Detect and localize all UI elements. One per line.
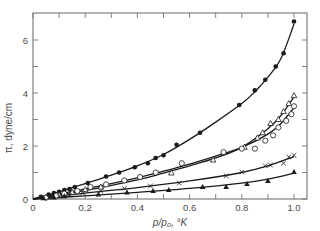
filled-triangle-marker [124, 189, 130, 194]
open-circle-marker [252, 146, 257, 151]
open-triangle-marker [291, 93, 297, 98]
data-markers [39, 19, 297, 200]
filled-circle-marker [292, 19, 297, 24]
filled-triangle-marker [291, 169, 297, 174]
open-circle-marker [122, 178, 127, 183]
open-circle-marker [289, 112, 294, 117]
open-circle-marker [239, 146, 244, 151]
filled-circle-marker [174, 142, 179, 147]
open-circle-marker [284, 118, 289, 123]
x-tick-label: 1.0 [287, 202, 300, 213]
x-tick-label: 0.6 [183, 202, 196, 213]
filled-circle-marker [153, 156, 158, 161]
series-filled-triangles [41, 169, 297, 200]
filled-circle-marker [281, 51, 286, 56]
x-tick-label: 0.8 [235, 202, 248, 213]
x-tick-label: 0.4 [131, 202, 144, 213]
open-circle-marker [221, 149, 226, 154]
open-circle-marker [291, 104, 296, 109]
open-circle-marker [88, 184, 93, 189]
open-triangle-marker [268, 120, 274, 125]
open-triangle-marker [260, 130, 266, 135]
fit-curves [33, 24, 294, 199]
y-tick-label: 0 [23, 194, 28, 205]
chart-container: 00.20.40.60.81.00246 p/p₀, °K π, dyne/cm [0, 0, 320, 231]
filled-circle-marker [237, 103, 242, 108]
axis-ticks: 00.20.40.60.81.00246 [23, 13, 307, 213]
filled-circle-marker [253, 88, 258, 93]
filled-circle-marker [146, 161, 151, 166]
x-tick-label: 0 [30, 202, 35, 213]
filled-circle-marker [117, 170, 122, 175]
series-open-circles [43, 104, 296, 201]
filled-circle-marker [132, 165, 137, 170]
y-tick-label: 6 [23, 35, 28, 46]
open-circle-marker [75, 188, 80, 193]
open-circle-marker [137, 174, 142, 179]
y-tick-label: 4 [23, 88, 28, 99]
filled-circle-marker [104, 174, 109, 179]
y-axis-label: π, dyne/cm [3, 103, 14, 153]
pressure-plot: 00.20.40.60.81.00246 p/p₀, °K π, dyne/cm [0, 0, 320, 231]
open-circle-marker [263, 138, 268, 143]
filled-circle-marker [161, 153, 166, 158]
filled-circle-marker [198, 130, 203, 135]
filled-circle-marker [273, 64, 278, 69]
filled-circle-marker [263, 77, 268, 82]
open-circle-marker [103, 182, 108, 187]
x-tick-label: 0.2 [79, 202, 92, 213]
open-circle-marker [271, 133, 276, 138]
y-tick-label: 2 [23, 141, 28, 152]
open-circle-marker [276, 125, 281, 130]
open-circle-marker [179, 161, 184, 166]
x-axis-label: p/p₀, °K [152, 217, 189, 228]
open-circle-marker [153, 170, 158, 175]
cross-marker [281, 161, 286, 166]
